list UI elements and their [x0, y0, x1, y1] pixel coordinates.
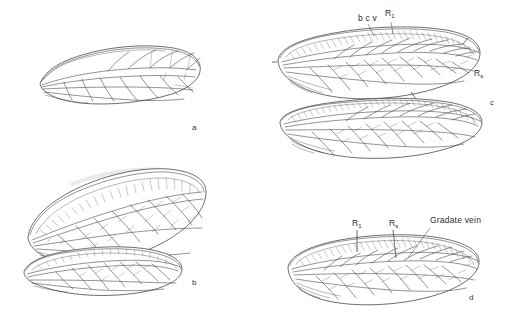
- label-r1-sub: 1: [391, 13, 395, 19]
- label-r1-d: R1: [352, 219, 362, 228]
- label-rs: Rs: [474, 69, 484, 78]
- panel-a-wing: [40, 46, 200, 104]
- wing-venation-figure: b c v R1 Rs R1 Rs Gradate vein a b c d: [0, 0, 512, 322]
- panel-c-hindwing: [280, 98, 482, 158]
- label-r1-d-sub: 1: [358, 223, 362, 229]
- label-gradate-vein: Gradate vein: [430, 216, 481, 225]
- panel-d-wing: [288, 230, 479, 305]
- panel-letter-a: a: [192, 124, 197, 132]
- panel-letter-d: d: [469, 294, 474, 302]
- label-rs-sub: s: [480, 73, 483, 79]
- figure-svg: [0, 0, 512, 322]
- panel-c-forewing: [272, 27, 480, 99]
- label-rs-d: Rs: [389, 219, 399, 228]
- label-r1: R1: [385, 9, 395, 18]
- label-bcv: b c v: [358, 14, 377, 23]
- panel-letter-c: c: [490, 99, 494, 107]
- label-rs-d-sub: s: [395, 223, 398, 229]
- panel-letter-b: b: [192, 279, 197, 287]
